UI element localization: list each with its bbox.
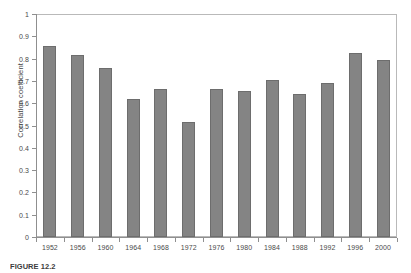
- x-axis-tick-label: 1964: [119, 244, 147, 252]
- x-axis-tick-mark: [397, 238, 398, 242]
- figure-caption: FIGURE 12.2: [10, 262, 405, 271]
- x-axis-tick-mark: [92, 238, 93, 242]
- x-axis-tick-label: 1972: [175, 244, 203, 252]
- y-axis-tick-label: 0: [0, 234, 36, 241]
- bar: [321, 83, 334, 237]
- x-axis-tick-label: 2000: [369, 244, 397, 252]
- x-axis-tick-mark: [286, 238, 287, 242]
- y-axis-tick-label: 0.4: [0, 144, 36, 151]
- x-axis-tick-mark: [203, 238, 204, 242]
- y-axis-tick-label: 0.8: [0, 55, 36, 62]
- bar: [99, 68, 112, 237]
- x-axis-tick-mark: [341, 238, 342, 242]
- x-axis-tick-label: 1952: [36, 244, 64, 252]
- bar: [127, 99, 140, 237]
- y-axis-tick-label: 0.3: [0, 167, 36, 174]
- x-axis-tick-mark: [369, 238, 370, 242]
- y-axis-tick-label: 0.6: [0, 100, 36, 107]
- figure-container: Correlation coefficient 00.10.20.30.40.5…: [0, 0, 411, 273]
- x-axis-tick-label: 1988: [286, 244, 314, 252]
- bar: [349, 53, 362, 237]
- x-axis-tick-mark: [258, 238, 259, 242]
- bar: [43, 46, 56, 237]
- x-axis-tick-label: 1960: [92, 244, 120, 252]
- x-axis-tick-mark: [314, 238, 315, 242]
- bar: [377, 60, 390, 237]
- bar: [293, 94, 306, 237]
- y-axis-tick-label: 0.5: [0, 122, 36, 129]
- x-axis-tick-label: 1976: [203, 244, 231, 252]
- bar: [210, 89, 223, 237]
- figure-caption-label: FIGURE 12.2: [10, 262, 56, 271]
- bar: [238, 91, 251, 237]
- x-axis-tick-label: 1992: [314, 244, 342, 252]
- x-axis-tick-label: 1980: [230, 244, 258, 252]
- bar: [71, 55, 84, 237]
- y-axis-tick-label: 0.2: [0, 189, 36, 196]
- x-axis-tick-label: 1984: [258, 244, 286, 252]
- x-axis-tick-mark: [230, 238, 231, 242]
- y-axis-tick-label: 0.7: [0, 77, 36, 84]
- x-axis-tick-label: 1968: [147, 244, 175, 252]
- x-axis-tick-mark: [147, 238, 148, 242]
- x-axis-tick-mark: [36, 238, 37, 242]
- bar-series: [36, 14, 397, 237]
- y-axis-tick-label: 1: [0, 11, 36, 18]
- x-axis-line: [36, 237, 397, 238]
- bar: [154, 89, 167, 237]
- x-axis-tick-mark: [64, 238, 65, 242]
- bar: [182, 122, 195, 237]
- x-axis-tick-label: 1956: [64, 244, 92, 252]
- y-axis-tick-label: 0.9: [0, 33, 36, 40]
- y-axis-tick-label: 0.1: [0, 211, 36, 218]
- x-axis-tick-mark: [119, 238, 120, 242]
- x-axis-tick-mark: [175, 238, 176, 242]
- bar: [266, 80, 279, 237]
- x-axis-tick-label: 1996: [341, 244, 369, 252]
